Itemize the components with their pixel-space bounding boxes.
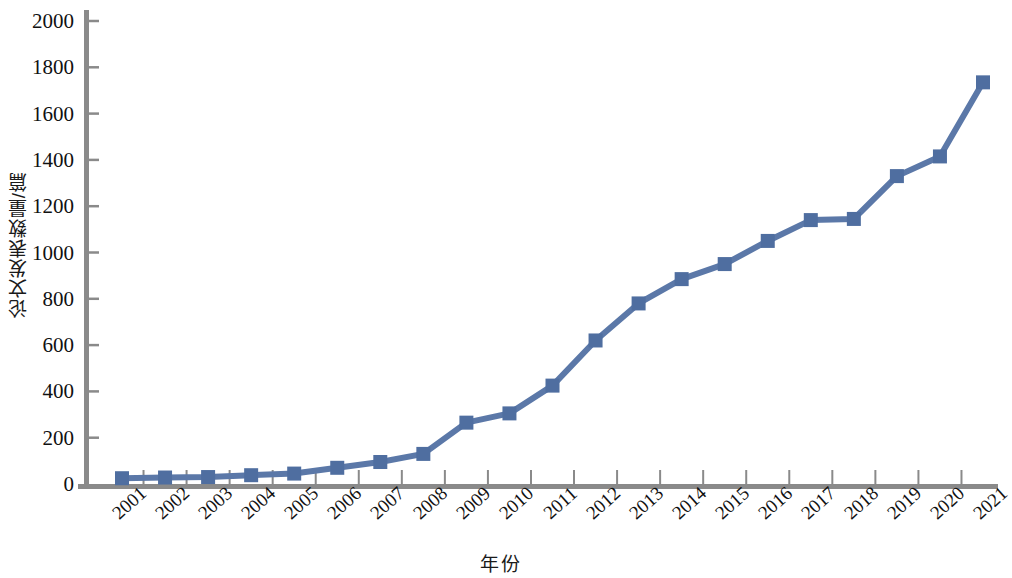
x-axis-tick-label: 2017: [797, 482, 840, 524]
y-axis-tick-label: 1200: [32, 194, 74, 219]
data-point-marker: [330, 461, 344, 475]
x-axis-tick-label: 2006: [323, 482, 366, 524]
x-axis-tick-label: 2013: [624, 482, 667, 524]
data-point-marker: [675, 272, 689, 286]
x-axis-title: 年份: [0, 549, 1002, 576]
data-point-marker: [847, 212, 861, 226]
y-axis-tick-label: 200: [43, 425, 75, 450]
x-axis-tick-label: 2004: [237, 482, 280, 524]
x-axis-tick-label: 2019: [883, 482, 926, 524]
y-axis-tick-label: 0: [64, 472, 75, 497]
data-point-marker: [976, 75, 990, 89]
x-axis-tick-label: 2021: [969, 482, 1012, 524]
plot-area: [86, 10, 992, 486]
data-point-marker: [589, 333, 603, 347]
data-point-marker: [546, 379, 560, 393]
y-axis-tick-label: 400: [43, 379, 75, 404]
x-axis-tick-label: 2007: [366, 482, 409, 524]
data-point-marker: [804, 213, 818, 227]
x-axis-tick-label: 2010: [495, 482, 538, 524]
data-point-marker: [761, 234, 775, 248]
y-axis-tick-label: 1400: [32, 147, 74, 172]
x-axis-tick-label: 2008: [409, 482, 452, 524]
data-point-marker: [933, 149, 947, 163]
data-point-marker: [287, 467, 301, 481]
data-point-marker: [115, 471, 129, 485]
y-axis-tick-label: 800: [43, 286, 75, 311]
y-axis-tick-label: 1600: [32, 101, 74, 126]
x-axis-tick-label: 2009: [452, 482, 495, 524]
data-point-marker: [158, 471, 172, 485]
x-axis-tick-label: 2012: [581, 482, 624, 524]
x-axis-tick-label: 2011: [539, 483, 581, 524]
data-point-marker: [502, 406, 516, 420]
y-axis-tick-label: 1000: [32, 240, 74, 265]
y-axis-tick-label: 2000: [32, 9, 74, 34]
data-point-marker: [890, 169, 904, 183]
x-axis-tick-label: 2005: [280, 482, 323, 524]
y-axis-tick-label: 1800: [32, 55, 74, 80]
series-plot: [86, 10, 992, 486]
data-point-marker: [244, 468, 258, 482]
series-line: [122, 82, 983, 478]
x-axis-tick-label: 2003: [194, 482, 237, 524]
data-point-marker: [416, 447, 430, 461]
x-axis-tick-label: 2002: [151, 482, 194, 524]
y-axis-tick-labels: 0200400600800100012001400160018002000: [28, 0, 80, 490]
x-axis-tick-label: 2001: [108, 482, 151, 524]
x-axis-tick-label: 2018: [840, 482, 883, 524]
x-axis-tick-label: 2020: [926, 482, 969, 524]
data-point-marker: [373, 455, 387, 469]
y-axis-tick-label: 600: [43, 333, 75, 358]
x-axis-tick-label: 2014: [668, 482, 711, 524]
x-axis-tick-label: 2015: [711, 482, 754, 524]
data-point-marker: [632, 296, 646, 310]
x-axis-tick-label: 2016: [754, 482, 797, 524]
x-axis-tick-labels: 2001200220032004200520062007200820092010…: [86, 489, 992, 549]
data-point-marker: [459, 416, 473, 430]
data-point-marker: [718, 257, 732, 271]
data-point-marker: [201, 470, 215, 484]
